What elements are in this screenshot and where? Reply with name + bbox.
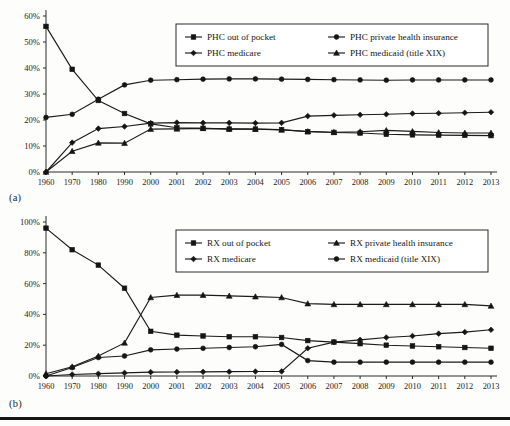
data-point (279, 77, 284, 82)
panel-a-label: (a) (9, 192, 21, 203)
data-point (488, 327, 494, 333)
y-tick-label: 0% (29, 167, 40, 177)
data-point (410, 344, 415, 349)
x-tick-label: 2005 (273, 178, 290, 187)
data-point (174, 77, 179, 82)
x-tick-label: 2008 (352, 382, 369, 391)
data-point (384, 78, 389, 83)
x-tick-label: 2000 (142, 382, 159, 391)
data-point (279, 335, 284, 340)
data-point (358, 78, 363, 83)
x-tick-label: 1960 (38, 178, 55, 187)
data-point (201, 334, 206, 339)
data-point (227, 77, 232, 82)
data-point (174, 347, 179, 352)
data-point (384, 343, 389, 348)
data-point (462, 360, 467, 365)
x-tick-label: 2013 (483, 178, 500, 187)
chart-legend: PHC out of pocketPHC private health insu… (176, 24, 488, 66)
chart-panel-a: 0%10%20%30%40%50%60%19601970198019902000… (0, 0, 510, 212)
data-point (200, 369, 206, 375)
panel-b-label: (b) (9, 398, 22, 409)
data-point (201, 346, 206, 351)
y-tick-label: 20% (24, 115, 40, 125)
series-line (46, 112, 491, 172)
data-point (436, 331, 442, 337)
legend-label: PHC medicare (207, 48, 261, 58)
data-point (122, 370, 128, 376)
data-point (122, 340, 128, 345)
data-point (332, 77, 337, 82)
data-point (332, 360, 337, 365)
x-tick-label: 2001 (169, 382, 186, 391)
x-tick-label: 2012 (456, 178, 473, 187)
data-point (174, 120, 180, 126)
data-point (253, 77, 258, 82)
bottom-divider (0, 417, 510, 420)
x-tick-label: 2001 (169, 178, 186, 187)
data-point (122, 286, 127, 291)
data-point (383, 335, 389, 341)
data-point (175, 333, 180, 338)
x-tick-label: 2004 (247, 382, 265, 391)
data-point (96, 97, 101, 102)
x-tick-label: 2008 (352, 178, 369, 187)
x-tick-label: 2003 (221, 178, 238, 187)
x-tick-label: 2005 (273, 382, 290, 391)
data-point (410, 333, 416, 339)
x-tick-label: 2013 (483, 382, 500, 391)
chart-panel-b: 0%20%40%60%80%100%1960197019801990200020… (0, 210, 510, 410)
x-tick-label: 2010 (404, 382, 421, 391)
x-tick-label: 1980 (90, 178, 107, 187)
data-point (122, 83, 127, 88)
x-tick-label: 2003 (221, 382, 238, 391)
x-tick-label: 2012 (456, 382, 473, 391)
data-point (410, 78, 415, 83)
data-point (253, 120, 259, 126)
y-tick-label: 40% (24, 63, 40, 73)
data-point (279, 120, 285, 126)
chart-a-svg: 0%10%20%30%40%50%60%19601970198019902000… (0, 0, 510, 212)
data-point (148, 78, 153, 83)
data-point (410, 111, 416, 117)
y-tick-label: 60% (24, 279, 40, 289)
x-tick-label: 1990 (116, 382, 133, 391)
legend-label: PHC out of pocket (207, 32, 276, 42)
x-tick-label: 2002 (195, 382, 212, 391)
series-phc-medicaid-title-xix (43, 125, 494, 174)
data-point (253, 369, 259, 375)
x-tick-label: 2006 (299, 382, 316, 391)
series-phc-medicare (43, 109, 494, 174)
data-point (227, 345, 232, 350)
data-point (226, 369, 232, 375)
y-tick-label: 50% (24, 37, 40, 47)
legend-label: RX medicaid (title XIX) (350, 254, 440, 264)
chart-b-svg: 0%20%40%60%80%100%1960197019801990200020… (0, 210, 510, 410)
data-point (44, 24, 49, 29)
data-point (384, 360, 389, 365)
data-point (253, 334, 258, 339)
data-point (305, 358, 310, 363)
x-tick-label: 2000 (142, 178, 159, 187)
data-point (148, 329, 153, 334)
data-point (358, 360, 363, 365)
y-tick-label: 60% (24, 11, 40, 21)
chart-legend: RX out of pocketRX private health insura… (176, 230, 488, 272)
data-point (44, 115, 49, 120)
data-point (331, 113, 337, 119)
x-tick-label: 2007 (326, 382, 343, 391)
legend-label: PHC private health insurance (350, 32, 458, 42)
series-rx-private-health-insurance (43, 292, 494, 376)
x-tick-label: 2009 (378, 178, 395, 187)
data-point (226, 120, 232, 126)
data-point (96, 355, 101, 360)
data-point (489, 78, 494, 83)
x-tick-label: 1980 (90, 382, 107, 391)
x-tick-label: 2011 (430, 178, 446, 187)
x-tick-label: 2010 (404, 178, 421, 187)
x-tick-label: 2004 (247, 178, 265, 187)
data-point (148, 347, 153, 352)
data-point (253, 344, 258, 349)
legend-box (176, 24, 488, 66)
data-point (122, 111, 127, 116)
